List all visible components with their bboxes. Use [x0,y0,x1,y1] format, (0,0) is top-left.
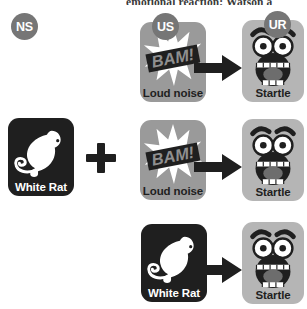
arrow-right-icon [194,255,242,285]
badge-unconditioned-response: UR [264,11,291,38]
arrow-right-icon [194,53,242,83]
card-label: Startle [242,290,304,302]
startled-face-icon [244,224,302,290]
card-startle-middle: Startle [242,119,304,201]
rat-silhouette-icon [11,122,71,181]
card-label: Startle [242,187,304,199]
card-startle-bottom: Startle [242,222,304,304]
card-label: Loud noise [140,186,206,198]
arrow-right-icon [194,152,242,182]
card-label: Startle [242,88,304,100]
startled-face-icon [244,121,302,187]
plus-operator-icon [86,143,116,173]
badge-neutral-stimulus: NS [11,13,38,40]
conditioning-diagram: NS US UR BAM! Loud noise [0,0,307,309]
card-white-rat-middle: White Rat [8,118,74,196]
card-label: Loud noise [140,88,206,100]
card-label: White Rat [8,182,74,194]
badge-unconditioned-stimulus: US [152,13,179,40]
card-label: White Rat [141,288,207,300]
